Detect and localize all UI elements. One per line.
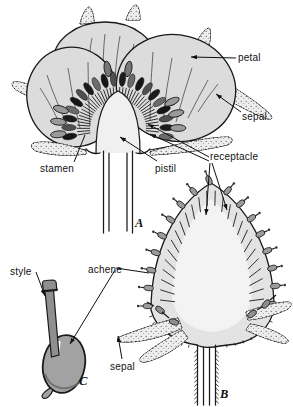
label-stamen: stamen <box>40 163 74 174</box>
label-pistil: pistil <box>155 163 176 174</box>
label-style: style <box>10 266 32 277</box>
figure-c-achene: C <box>38 280 89 398</box>
figure-b-receptacle: B <box>118 170 292 405</box>
fruit-stem <box>198 345 216 405</box>
achene-beak <box>42 388 53 398</box>
figure-a-flower-section: A <box>12 5 272 233</box>
label-petal: petal <box>238 52 261 63</box>
diagram-canvas: A B <box>0 0 293 407</box>
label-sepal-top: sepal <box>242 111 267 122</box>
leader-achene-c <box>70 270 115 344</box>
figure-letter-b: B <box>219 387 228 401</box>
figure-letter-c: C <box>79 374 88 388</box>
style-stalk <box>45 290 59 357</box>
label-achene: achene <box>88 264 122 275</box>
flower-stem <box>104 151 133 233</box>
label-sepal-bottom: sepal <box>110 361 135 372</box>
figure-letter-a: A <box>134 216 143 230</box>
label-receptacle: receptacle <box>210 151 258 162</box>
